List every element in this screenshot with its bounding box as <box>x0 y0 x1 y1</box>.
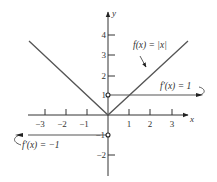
x-axis-label: x <box>189 114 194 124</box>
fx-pointer-arrow <box>140 56 146 67</box>
axes: x y <box>28 8 194 176</box>
fx-label: f(x) = |x| <box>133 40 167 51</box>
fprime-neg-label: f′(x) = −1 <box>22 140 60 151</box>
y-tick-labels: 4 3 2 1 −1 −2 <box>95 30 106 160</box>
y-tick-label: 1 <box>102 90 107 100</box>
y-axis-label: y <box>111 8 116 18</box>
x-tick-label: −1 <box>79 119 89 129</box>
x-tick-labels: −3 −2 −1 1 2 3 <box>35 119 175 129</box>
fprime-pos-pointer-arrow <box>198 87 204 95</box>
y-tick-label: 3 <box>102 50 107 60</box>
fprime-neg-pointer-arrow <box>15 135 22 145</box>
x-tick-label: 1 <box>127 119 132 129</box>
fprime-pos-label: f′(x) = 1 <box>160 81 191 92</box>
open-circle-neg <box>106 133 110 137</box>
open-circle-pos <box>106 93 110 97</box>
y-tick-label: 2 <box>102 71 107 81</box>
y-tick-label: −2 <box>96 150 106 160</box>
x-tick-label: 2 <box>148 119 153 129</box>
x-tick-label: −3 <box>35 119 45 129</box>
x-tick-label: −2 <box>57 119 67 129</box>
chart: x y −3 −2 −1 1 2 3 4 3 2 1 −1 −2 <box>0 0 217 182</box>
y-tick-label: 4 <box>102 30 107 40</box>
x-tick-label: 3 <box>170 119 175 129</box>
fprime-pos-arrowhead <box>196 93 203 97</box>
